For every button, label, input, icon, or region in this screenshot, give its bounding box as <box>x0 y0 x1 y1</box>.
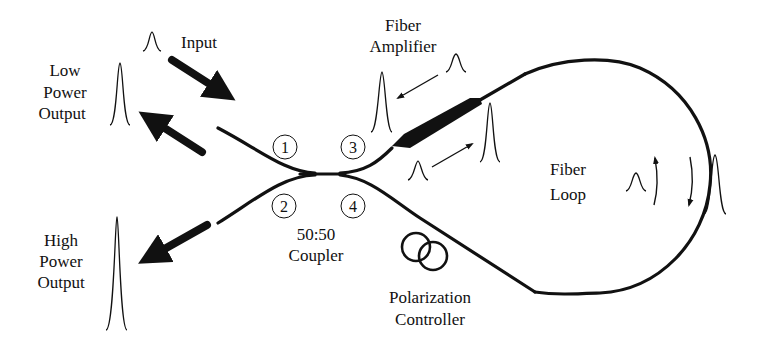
fiber-amplifier-label: Fiber Amplifier <box>369 16 436 56</box>
svg-text:Polarization: Polarization <box>389 288 472 307</box>
svg-text:2: 2 <box>280 198 288 215</box>
low-power-output-label: Low Power Output <box>38 61 87 123</box>
high-power-output-label: High Power Output <box>37 231 85 292</box>
svg-text:Fiber: Fiber <box>385 16 421 35</box>
port-4: 4 <box>341 194 365 218</box>
polarization-controller-label: Polarization Controller <box>389 288 472 329</box>
coupler-label: 50:50 Coupler <box>289 225 344 265</box>
svg-text:Low: Low <box>49 61 81 80</box>
svg-text:Amplifier: Amplifier <box>369 37 436 56</box>
svg-text:Coupler: Coupler <box>289 246 344 265</box>
port-1: 1 <box>273 135 297 159</box>
port-2: 2 <box>272 194 296 218</box>
loop-ccw-pulse-icon <box>626 173 646 191</box>
amp-out-arrow <box>432 144 472 167</box>
low-output-pulse-icon <box>110 63 130 125</box>
amp-return-pulse-icon <box>371 72 392 132</box>
loop-cw-pulse-icon <box>704 155 726 214</box>
svg-text:50:50: 50:50 <box>297 225 336 244</box>
input-label: Input <box>181 33 217 52</box>
low-output-arrow <box>152 120 202 152</box>
port-3: 3 <box>341 135 365 159</box>
nolm-diagram: 1 3 2 4 Input Low Power Output High Powe… <box>0 0 760 343</box>
svg-text:High: High <box>44 231 79 250</box>
fiber-loop-label: Fiber Loop <box>550 160 586 204</box>
coupler-fibers <box>218 128 535 292</box>
amp-input-pulse-icon <box>446 54 466 72</box>
loop-ccw-arrow <box>654 158 657 205</box>
svg-text:Output: Output <box>38 104 86 123</box>
amp-seed-pulse-icon <box>408 161 428 180</box>
svg-text:1: 1 <box>281 139 289 156</box>
svg-text:Loop: Loop <box>550 185 586 204</box>
svg-text:Fiber: Fiber <box>550 160 586 179</box>
polarization-controller-icon <box>402 233 447 270</box>
svg-text:Controller: Controller <box>395 310 465 329</box>
svg-text:Power: Power <box>39 252 83 271</box>
fiber-amplifier <box>392 74 525 148</box>
svg-text:3: 3 <box>349 139 357 156</box>
svg-text:4: 4 <box>349 198 357 215</box>
loop-cw-arrow <box>689 157 692 205</box>
svg-text:Power: Power <box>43 83 87 102</box>
amp-output-pulse-icon <box>480 103 500 162</box>
high-output-pulse-icon <box>106 217 127 330</box>
amp-in-arrow <box>398 75 438 98</box>
high-output-arrow <box>152 225 207 256</box>
svg-text:Output: Output <box>37 273 85 292</box>
input-arrow <box>172 60 222 92</box>
input-pulse-icon <box>143 32 161 51</box>
